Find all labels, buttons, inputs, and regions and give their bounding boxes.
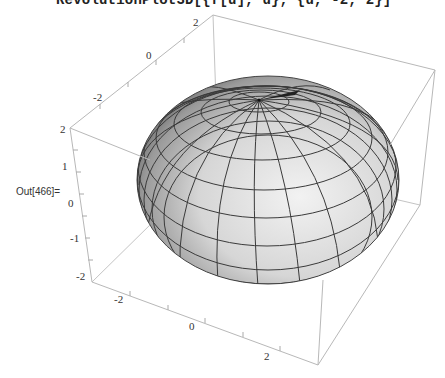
tick-label-vert-2: 2 [60,123,66,135]
tick-label-vert-1: 1 [62,160,68,172]
tick-label-vert-neg2: -2 [76,270,85,282]
tick-label-bottom-neg2: -2 [114,293,123,305]
tick-label-vert-neg1: -1 [70,232,79,244]
tick-label-top-neg2: -2 [93,91,102,103]
plot-3d[interactable]: 0 -2 2 2 1 0 -1 -2 -2 0 2 [0,0,445,378]
tick-label-vert-0: 0 [68,197,74,209]
tick-label-bottom-2: 2 [264,350,270,362]
tick-label-bottom-0: 0 [189,320,195,332]
tick-label-corner-2: 2 [193,16,199,28]
tick-label-top-0: 0 [146,49,152,61]
ellipsoid-surface [137,76,399,299]
